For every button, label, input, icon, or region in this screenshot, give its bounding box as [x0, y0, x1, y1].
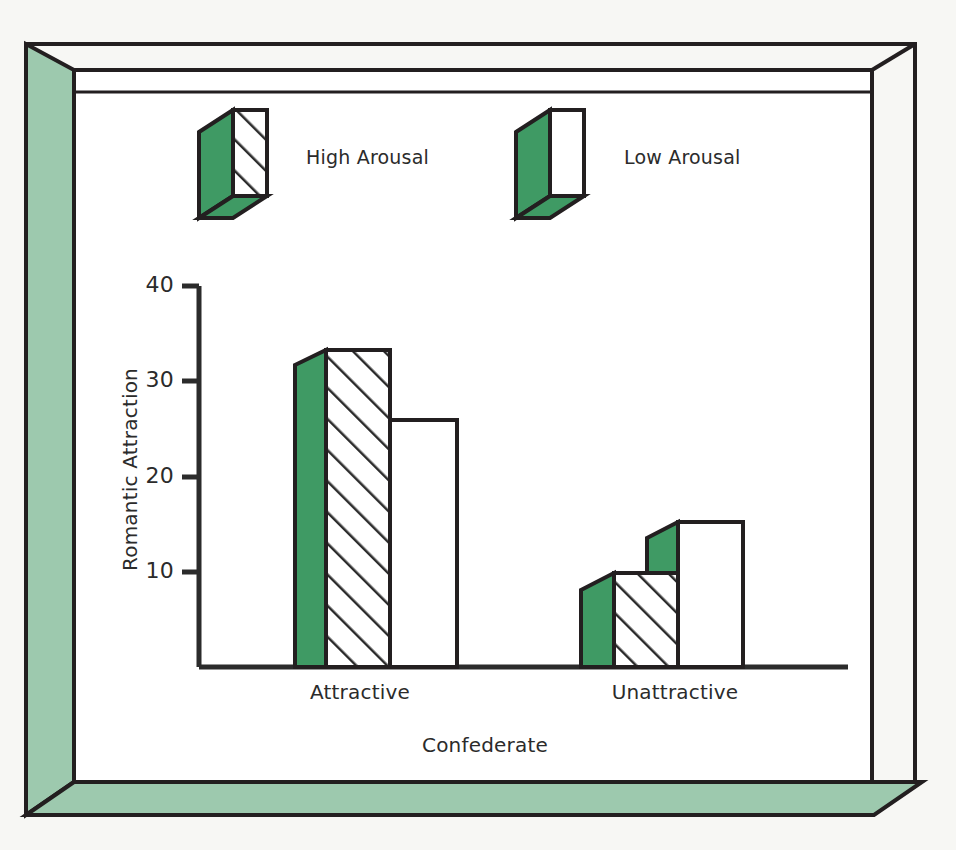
bar-front-face	[326, 350, 390, 667]
bar-attractive-low-arousal	[390, 420, 457, 667]
bar-attractive-high-arousal	[295, 350, 390, 667]
x-category-label-unattractive: Unattractive	[590, 680, 760, 704]
bar-left-side-face	[295, 350, 326, 667]
axis-lines	[182, 286, 848, 667]
bar-front-face	[390, 420, 457, 667]
chart-canvas	[0, 0, 956, 850]
y-axis-title: Romantic Attraction	[118, 368, 142, 571]
x-axis-title: Confederate	[395, 733, 575, 757]
figure-root: High Arousal Low Arousal 40 30 20 10 Rom…	[0, 0, 956, 850]
bar-front-face	[614, 573, 678, 667]
bar-front-face	[678, 522, 743, 667]
y-tick-label-40: 40	[128, 272, 174, 297]
x-category-label-attractive: Attractive	[290, 680, 430, 704]
legend-swatch-front-face-hatched	[233, 110, 267, 196]
legend-swatch-front-face-white	[550, 110, 584, 196]
bar-left-side-face	[647, 522, 678, 573]
legend-label-high-arousal: High Arousal	[306, 146, 429, 168]
bar-unattractive-high-arousal	[581, 573, 678, 667]
legend-swatch-high-arousal	[199, 110, 267, 218]
legend-swatch-low-arousal	[516, 110, 584, 218]
legend-label-low-arousal: Low Arousal	[624, 146, 741, 168]
bar-left-side-face	[581, 573, 614, 667]
